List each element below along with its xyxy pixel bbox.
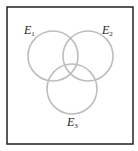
set-circle-e2 (63, 31, 113, 81)
set-label-e3: E3 (66, 115, 78, 130)
venn-diagram: E1E2E3 (0, 0, 138, 151)
set-label-e2: E2 (101, 23, 113, 38)
set-label-e1: E1 (23, 23, 35, 38)
